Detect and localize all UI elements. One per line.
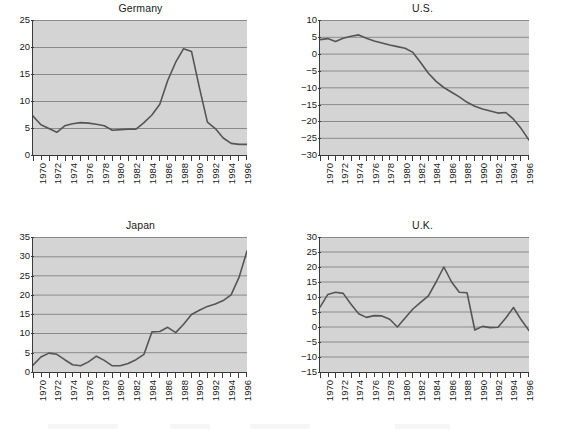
x-tick-label: 1992 (211, 380, 221, 401)
y-tick-label: −5 (306, 66, 317, 76)
y-tick-label: 0 (25, 367, 30, 377)
y-axis-line-uk (319, 237, 320, 372)
x-tick-label: 1994 (227, 163, 237, 184)
x-tick-label: 1970 (325, 163, 335, 184)
x-tick-label: 1972 (53, 380, 63, 401)
y-tick-label: −25 (301, 133, 317, 143)
x-tick-label: 1990 (479, 163, 489, 184)
x-tick-label: 1990 (195, 380, 205, 401)
y-axis-labels-uk: 30 25 20 15 10 5 0 −5 −10 −15 (284, 237, 317, 372)
x-tick-label: 1988 (463, 380, 473, 401)
chart-title-germany: Germany (0, 2, 281, 14)
y-tick-label: 10 (306, 15, 317, 25)
x-tick-label: 1982 (132, 163, 142, 184)
y-tick-label: 30 (306, 232, 317, 242)
plot-region-germany (33, 20, 247, 155)
x-tick-label: 1982 (417, 163, 427, 184)
x-tick-label: 1994 (509, 380, 519, 401)
x-axis-line-germany (33, 155, 247, 156)
y-tick-label: −10 (301, 352, 317, 362)
plot-lines-japan (33, 237, 247, 372)
y-tick-label: 20 (306, 262, 317, 272)
x-tick-label: 1992 (494, 380, 504, 401)
y-tick-label: −15 (301, 100, 317, 110)
chart-title-uk: U.K. (282, 219, 563, 231)
x-tick-label: 1974 (69, 163, 79, 184)
x-tick-label: 1980 (402, 163, 412, 184)
x-tick-label: 1996 (243, 380, 253, 401)
x-axis-line-uk (320, 372, 529, 373)
y-tick-label: 10 (19, 328, 30, 338)
y-axis-line-us (319, 20, 320, 155)
x-tick-label: 1978 (101, 163, 111, 184)
x-tick-label: 1980 (402, 380, 412, 401)
x-tick-label: 1978 (386, 380, 396, 401)
figure-canvas: Germany 25 20 15 10 5 0 (0, 0, 563, 435)
x-tick-label: 1974 (69, 380, 79, 401)
series-line-uk (320, 267, 529, 331)
x-tick-label: 1986 (164, 163, 174, 184)
x-tick-label: 1976 (85, 380, 95, 401)
y-tick-label: 25 (19, 271, 30, 281)
chart-title-japan: Japan (0, 219, 281, 231)
y-axis-labels-us: 10 5 0 −5 −10 −15 −20 −25 −30 (284, 20, 317, 155)
y-tick-label: −5 (306, 337, 317, 347)
chart-panel-germany: Germany 25 20 15 10 5 0 (0, 0, 281, 217)
y-tick-label: 15 (306, 277, 317, 287)
y-axis-line-japan (32, 237, 33, 372)
y-tick-label: −15 (301, 367, 317, 377)
y-tick-label: 0 (312, 49, 317, 59)
x-tick-label: 1976 (85, 163, 95, 184)
y-tick-label: 10 (19, 96, 30, 106)
x-tick-label: 1988 (463, 163, 473, 184)
y-axis-line-germany (32, 20, 33, 155)
y-tick-label: 30 (19, 251, 30, 261)
x-tick-label: 1984 (148, 380, 158, 401)
x-tick-label: 1972 (340, 380, 350, 401)
x-tick-label: 1978 (386, 163, 396, 184)
x-tick-label: 1984 (148, 163, 158, 184)
x-tick-label: 1990 (195, 163, 205, 184)
y-tick-label: −10 (301, 83, 317, 93)
x-tick-label: 1996 (525, 163, 535, 184)
chart-panel-uk: U.K. 30 25 (282, 217, 563, 434)
y-axis-labels-germany: 25 20 15 10 5 0 (2, 20, 30, 155)
x-tick-label: 1996 (525, 380, 535, 401)
y-tick-label: 5 (25, 348, 30, 358)
plot-lines-us (320, 20, 529, 155)
x-tick-label: 1972 (340, 163, 350, 184)
y-tick-label: 0 (312, 322, 317, 332)
plot-region-japan (33, 237, 247, 372)
plot-lines-germany (33, 20, 247, 155)
y-tick-label: 20 (19, 290, 30, 300)
x-tick-label: 1974 (355, 163, 365, 184)
x-tick-label: 1984 (432, 380, 442, 401)
x-tick-label: 1988 (180, 380, 190, 401)
x-tick-label: 1982 (417, 380, 427, 401)
y-tick-label: −20 (301, 116, 317, 126)
x-tick-label: 1980 (116, 163, 126, 184)
x-tick-label: 1988 (180, 163, 190, 184)
x-tick-label: 1986 (448, 163, 458, 184)
x-tick-label: 1970 (38, 380, 48, 401)
x-tick-label: 1994 (227, 380, 237, 401)
x-axis-line-us (320, 155, 529, 156)
x-tick-label: 1986 (448, 380, 458, 401)
y-tick-label: −30 (301, 150, 317, 160)
x-axis-labels-us: 1970197219741976197819801982198419861988… (320, 163, 529, 203)
x-tick-label: 1992 (494, 163, 504, 184)
chart-title-us: U.S. (282, 2, 563, 14)
y-tick-label: 20 (19, 42, 30, 52)
x-tick-label: 1992 (211, 163, 221, 184)
x-tick-label: 1976 (371, 163, 381, 184)
x-tick-label: 1970 (325, 380, 335, 401)
x-tick-label: 1984 (432, 163, 442, 184)
x-tick-label: 1970 (38, 163, 48, 184)
x-tick-label: 1990 (479, 380, 489, 401)
y-tick-label: 5 (312, 307, 317, 317)
y-tick-label: 5 (25, 123, 30, 133)
y-tick-label: 0 (25, 150, 30, 160)
series-line-japan (33, 251, 247, 366)
x-axis-labels-japan: 1970197219741976197819801982198419861988… (33, 380, 247, 420)
y-tick-label: 15 (19, 69, 30, 79)
